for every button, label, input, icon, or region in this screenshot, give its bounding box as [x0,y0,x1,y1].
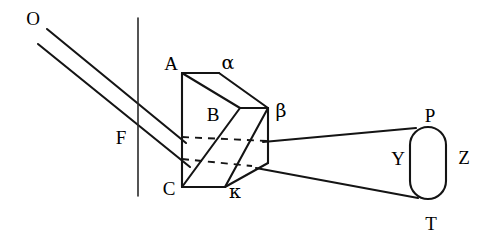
optical-ray-diagram: O F A α B β C κ P Y Z T [0,0,493,244]
prism-edge-a-b [182,73,240,108]
exit-ray-upper-line [263,128,416,142]
label-prism-beta: β [276,99,287,121]
label-lens-y: Y [391,148,405,169]
prism-hidden-edge-upper [182,137,268,141]
incident-ray-group [38,29,190,167]
label-prism-kappa: κ [229,180,241,202]
diagram-canvas: O F A α B β C κ P Y Z T [0,0,493,244]
prism-edge-alpha-beta [219,73,268,108]
eye-lens-shape [410,127,446,199]
label-lens-t: T [425,213,437,234]
label-lens-p: P [425,105,436,126]
label-screen-f: F [116,127,127,148]
exit-ray-lower-line [256,168,418,198]
prism-solid [182,73,268,187]
label-prism-c: C [163,178,176,199]
incident-ray-upper-line [47,29,186,143]
label-prism-b: B [207,104,220,125]
prism-hidden-edge-lower [182,159,252,166]
label-source-o: O [26,8,40,29]
label-prism-alpha: α [222,51,235,73]
label-lens-z: Z [458,147,470,168]
label-prism-a: A [164,53,178,74]
